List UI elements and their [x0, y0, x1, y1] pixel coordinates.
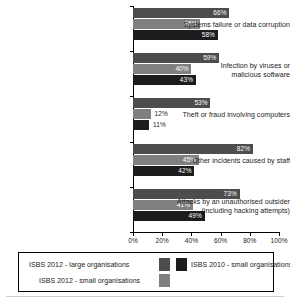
category-label-line: Infection by viruses or — [162, 61, 290, 70]
bar-value-label: 58% — [202, 31, 215, 39]
bar-row: 58% — [133, 30, 279, 40]
y-tick — [130, 232, 134, 233]
legend-label-small-2012: ISBS 2012 - small organisations — [39, 273, 140, 288]
legend: ISBS 2012 - large organisations ISBS 201… — [18, 252, 274, 292]
bar-chart: 0%20%40%60%80%100% 66%46%58%59%40%43%53%… — [0, 0, 290, 299]
y-tick — [130, 96, 134, 97]
footer-rule — [6, 296, 284, 297]
category-label-line: Systems failure or data corruption — [162, 20, 290, 29]
legend-swatch-small-2012 — [159, 274, 170, 287]
category-label-line: Attacks by an unauthorised outsider — [162, 197, 290, 206]
category-label-line: Other incidents caused by staff — [162, 156, 290, 165]
category-label-line: Theft or fraud involving computers — [162, 110, 290, 119]
x-tick-label: 40% — [185, 237, 198, 244]
bar-row: 82% — [133, 144, 279, 154]
category-label: Theft or fraud involving computers — [162, 110, 290, 119]
bar-row: 53% — [133, 98, 279, 108]
bar — [133, 120, 149, 130]
category-label: Attacks by an unauthorised outsider(incl… — [162, 197, 290, 215]
bar-value-label: 42% — [178, 167, 191, 175]
legend-swatch-large-2012 — [159, 258, 170, 271]
x-tick — [221, 232, 222, 236]
y-tick — [130, 51, 134, 52]
x-tick-label: 0% — [128, 237, 138, 244]
bar-row: 11% — [133, 120, 279, 130]
category-label-line: (including hacking attempts) — [162, 206, 290, 215]
y-tick — [130, 142, 134, 143]
y-tick — [130, 187, 134, 188]
bar — [133, 109, 151, 119]
bar-value-label: 53% — [194, 99, 207, 107]
x-tick-label: 60% — [214, 237, 227, 244]
legend-row-1: ISBS 2012 - large organisations ISBS 201… — [19, 257, 273, 272]
bar-value-label: 11% — [153, 121, 166, 129]
legend-swatch-small-2010 — [176, 258, 187, 271]
bar — [133, 144, 253, 154]
category-label: Other incidents caused by staff — [162, 156, 290, 165]
bar-row: 66% — [133, 8, 279, 18]
legend-row-2: ISBS 2012 - small organisations — [19, 273, 273, 288]
bar-row: 42% — [133, 166, 279, 176]
x-tick — [191, 232, 192, 236]
x-tick-label: 80% — [243, 237, 256, 244]
x-axis-line — [133, 232, 280, 233]
x-tick-label: 100% — [270, 237, 287, 244]
category-label-line: malicious software — [162, 70, 290, 79]
x-tick-label: 20% — [156, 237, 169, 244]
bar-value-label: 82% — [237, 145, 250, 153]
y-tick — [130, 6, 134, 7]
category-label: Infection by viruses ormalicious softwar… — [162, 61, 290, 79]
legend-label-small-2010: ISBS 2010 - small organisations — [191, 257, 290, 272]
x-tick — [279, 232, 280, 236]
x-tick — [250, 232, 251, 236]
x-tick — [162, 232, 163, 236]
category-label: Systems failure or data corruption — [162, 20, 290, 29]
bar-value-label: 66% — [213, 9, 226, 17]
legend-label-large-2012: ISBS 2012 - large organisations — [29, 257, 129, 272]
